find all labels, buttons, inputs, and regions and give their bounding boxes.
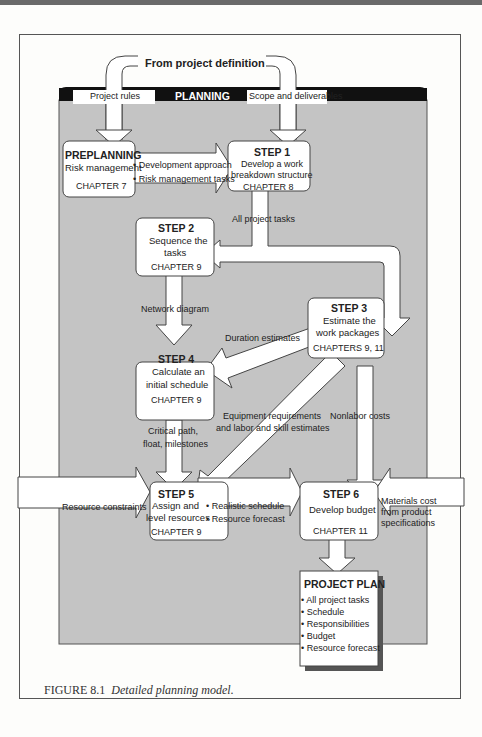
figure-title: Detailed planning model. xyxy=(111,683,233,697)
figure-number: FIGURE 8.1 xyxy=(44,683,105,697)
materials-label: Materials cost xyxy=(381,496,437,506)
step5-desc: Assign and xyxy=(152,501,199,512)
preplanning-output: • Development approach xyxy=(133,160,232,170)
project-rules-label: Project rules xyxy=(90,91,140,101)
step2-chapter: CHAPTER 9 xyxy=(151,262,202,272)
step5-title: STEP 5 xyxy=(158,488,194,500)
step6-desc: Develop budget xyxy=(309,505,376,516)
preplanning-subtitle: Risk management xyxy=(65,163,142,174)
step2-desc: Sequence the xyxy=(149,236,208,247)
step4-chapter: CHAPTER 9 xyxy=(151,395,202,405)
project-plan-item: • Schedule xyxy=(301,607,344,617)
materials-label: from product xyxy=(381,507,432,517)
step3-desc: Estimate the xyxy=(323,316,376,327)
step6-chapter: CHAPTER 11 xyxy=(313,526,368,536)
project-plan-item: • Responsibilities xyxy=(301,619,369,629)
critical-label: float, milestones xyxy=(143,439,208,449)
preplanning-title: PREPLANNING xyxy=(65,149,141,161)
step1-desc: Develop a work xyxy=(241,159,303,169)
preplanning-output: • Risk management tasks xyxy=(133,174,235,184)
project-plan-title: PROJECT PLAN xyxy=(304,578,385,590)
equipment-label: Equipment requirements xyxy=(223,411,321,421)
step4-desc: initial schedule xyxy=(146,380,208,391)
step5-output: • Resource forecast xyxy=(206,514,285,524)
step1-desc: breakdown structure xyxy=(231,170,313,180)
resource-constraints-label: Resource constraints xyxy=(62,502,147,512)
step5-output: • Realistic schedule xyxy=(206,501,284,511)
all-tasks-label: All project tasks xyxy=(232,214,295,224)
step4-desc: Calculate an xyxy=(152,367,205,378)
step5-chapter: CHAPTER 9 xyxy=(151,527,202,537)
materials-label: specifications xyxy=(381,518,435,528)
duration-label: Duration estimates xyxy=(225,333,300,343)
nonlabor-label: Nonlabor costs xyxy=(330,411,390,421)
step5-desc: level resources xyxy=(146,513,210,524)
step6-title: STEP 6 xyxy=(323,488,359,500)
scope-label: Scope and deliverables xyxy=(249,91,343,101)
step2-title: STEP 2 xyxy=(158,222,194,234)
source-label: From project definition xyxy=(145,57,265,70)
equipment-label: and labor and skill estimates xyxy=(216,423,330,433)
figure-caption: FIGURE 8.1 Detailed planning model. xyxy=(44,683,234,698)
planning-diagram xyxy=(0,0,482,737)
step4-title: STEP 4 xyxy=(158,353,194,365)
step3-chapter: CHAPTERS 9, 11 xyxy=(313,343,384,353)
step2-desc: tasks xyxy=(164,248,186,259)
step1-title: STEP 1 xyxy=(254,146,290,158)
project-plan-item: • Resource forecast xyxy=(301,643,380,653)
step1-chapter: CHAPTER 8 xyxy=(243,182,294,192)
step3-title: STEP 3 xyxy=(331,302,367,314)
project-plan-item: • Budget xyxy=(301,631,335,641)
network-label: Network diagram xyxy=(141,304,209,314)
project-plan-item: • All project tasks xyxy=(301,595,369,605)
step3-desc: work packages xyxy=(316,328,379,339)
critical-label: Critical path, xyxy=(148,426,198,436)
preplanning-chapter: CHAPTER 7 xyxy=(76,181,127,191)
planning-title: PLANNING xyxy=(175,90,230,102)
